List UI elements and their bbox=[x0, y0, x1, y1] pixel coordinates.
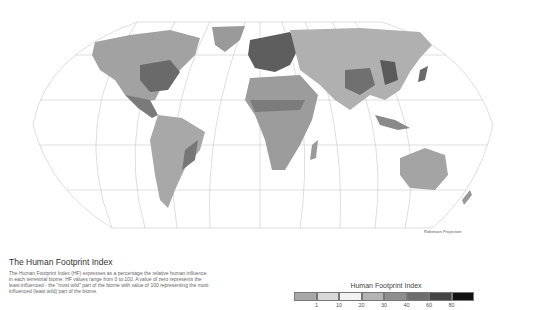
projection-label: Robinson Projection bbox=[424, 229, 462, 234]
legend-ticks: 1 10 20 30 40 60 80 bbox=[294, 301, 474, 309]
description-body: The Human Footprint Index (HF) expresses… bbox=[9, 270, 209, 294]
legend-color-bar bbox=[294, 292, 474, 301]
legend-swatch bbox=[317, 292, 340, 301]
legend-swatch bbox=[407, 292, 430, 301]
legend-tick: 80 bbox=[448, 302, 454, 308]
description-title: The Human Footprint Index bbox=[9, 257, 112, 267]
legend-tick: 1 bbox=[315, 302, 318, 308]
legend-swatch bbox=[384, 292, 407, 301]
legend-tick: 20 bbox=[358, 302, 364, 308]
legend-swatch bbox=[362, 292, 385, 301]
legend-tick: 30 bbox=[381, 302, 387, 308]
legend-title: Human Footprint Index bbox=[294, 282, 474, 289]
robinson-projection-map bbox=[0, 0, 538, 240]
legend-tick: 60 bbox=[426, 302, 432, 308]
legend-tick: 10 bbox=[336, 302, 342, 308]
legend-swatch bbox=[452, 292, 475, 301]
world-map: Robinson Projection bbox=[0, 0, 538, 240]
legend-swatch bbox=[429, 292, 452, 301]
legend-swatch bbox=[339, 292, 362, 301]
legend-swatch bbox=[294, 292, 317, 301]
map-legend: Human Footprint Index 1 10 20 30 40 60 8… bbox=[294, 282, 474, 309]
legend-tick: 40 bbox=[403, 302, 409, 308]
landmasses bbox=[92, 26, 472, 208]
